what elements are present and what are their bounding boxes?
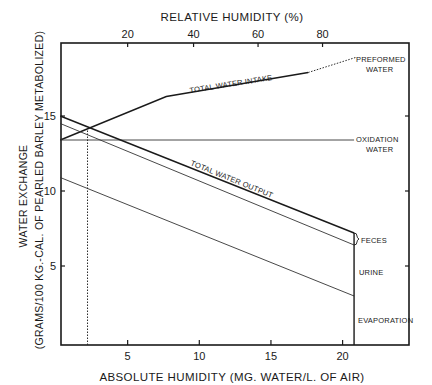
label-preformed-water-2: WATER (366, 65, 394, 74)
x-tick-label: 20 (336, 350, 348, 362)
label-urine: URINE (359, 268, 383, 277)
x-tick-label: 5 (125, 350, 131, 362)
top-tick-label: 60 (252, 28, 264, 40)
top-axis-title: RELATIVE HUMIDITY (%) (161, 11, 304, 23)
water-exchange-chart: 5101520 20406080 51015 ABSOLUTE HUMIDITY… (0, 0, 432, 385)
label-oxidation-water-1: OXIDATION (356, 135, 399, 144)
top-tick-label: 40 (187, 28, 199, 40)
series-group (60, 58, 355, 297)
series-line-urine-boundary (60, 178, 354, 297)
x-tick-label: 15 (265, 350, 277, 362)
series-line-total-water-intake (60, 73, 308, 141)
x-axis-title: ABSOLUTE HUMIDITY (MG. WATER/L. OF AIR) (99, 371, 364, 383)
label-feces: FECES (361, 236, 387, 245)
label-total-water-output: TOTAL WATER OUTPUT (189, 159, 274, 200)
label-total-water-intake: TOTAL WATER INTAKE (189, 73, 273, 95)
y-axis-title-line2: (GRAMS/100 KG.-CAL. OF PEARLED BARLEY ME… (33, 31, 45, 350)
top-axis-ticks: 20406080 (122, 28, 329, 47)
label-preformed-water-1: PREFORMED (356, 55, 406, 64)
top-tick-label: 80 (316, 28, 328, 40)
top-tick-label: 20 (122, 28, 134, 40)
y-tick-label: 15 (44, 110, 56, 122)
series-line-feces-boundary (60, 124, 354, 246)
x-axis-ticks: 5101520 (125, 340, 349, 362)
y-tick-label: 5 (50, 260, 56, 272)
series-line-total-water-intake-extrapolated (308, 58, 355, 73)
series-line-total-water-output (60, 116, 354, 233)
y-axis-title-line1: WATER EXCHANGE (17, 145, 29, 248)
x-tick-label: 10 (193, 350, 205, 362)
label-evaporation: EVAPORATION (358, 316, 413, 325)
y-tick-label: 10 (44, 185, 56, 197)
plot-frame (61, 43, 409, 345)
reference-lines (88, 130, 355, 346)
label-oxidation-water-2: WATER (366, 145, 394, 154)
